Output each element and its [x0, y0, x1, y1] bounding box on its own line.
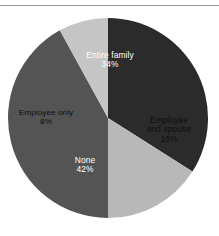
- figure-canvas: Entire family 34% Employee and spouse 16…: [0, 0, 219, 236]
- pie-chart: Entire family 34% Employee and spouse 16…: [0, 0, 219, 236]
- pie-chart-svg: [0, 0, 219, 236]
